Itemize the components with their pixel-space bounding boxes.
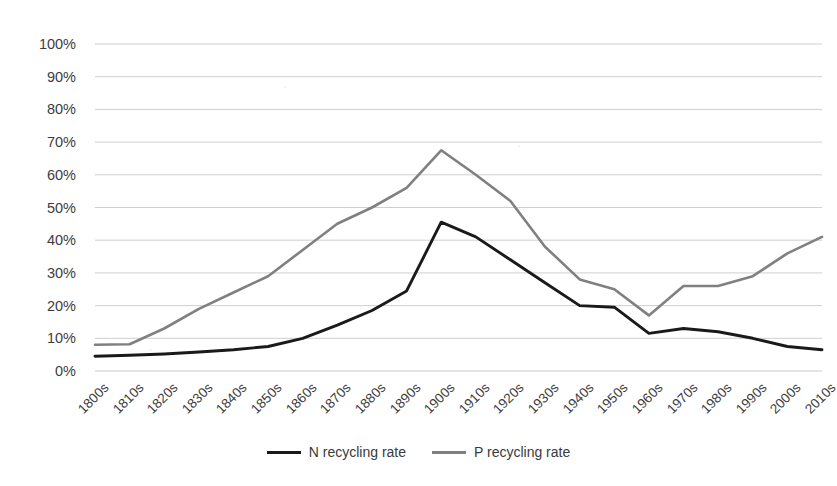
legend-item-label: P recycling rate (474, 444, 570, 460)
legend-item-p-recycling-rate[interactable]: P recycling rate (432, 444, 570, 460)
chart-legend: N recycling rate P recycling rate (0, 444, 837, 460)
legend-line-swatch-icon (267, 451, 301, 454)
line-chart: 100%90%80%70%60%50%40%30%20%10%0% 1800s1… (0, 0, 837, 486)
legend-item-n-recycling-rate[interactable]: N recycling rate (267, 444, 406, 460)
legend-line-swatch-icon (432, 451, 466, 454)
legend-item-label: N recycling rate (309, 444, 406, 460)
x-axis-tick-labels: 1800s1810s1820s1830s1840s1850s1860s1870s… (0, 0, 837, 486)
